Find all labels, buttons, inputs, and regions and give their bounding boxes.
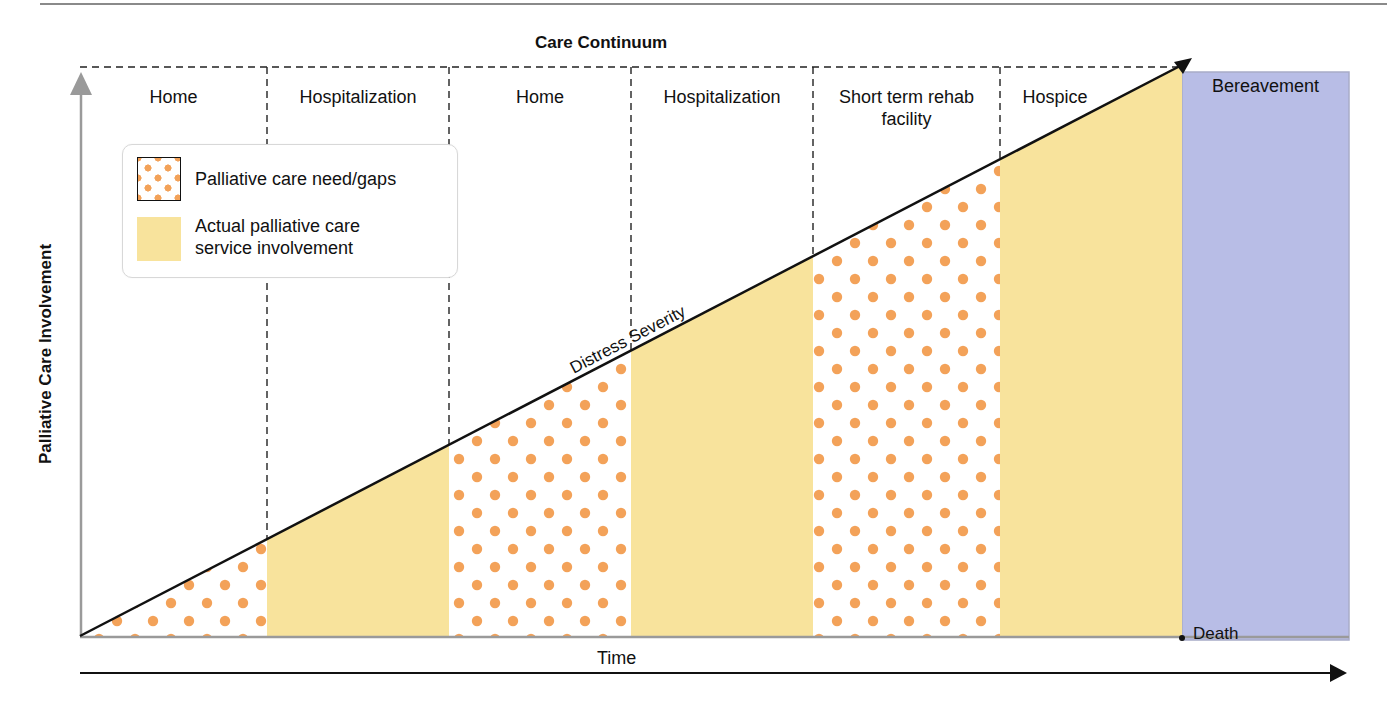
setting-label-home-2: Home — [449, 86, 631, 108]
legend-label-wrap: Actual palliative care service involveme… — [195, 215, 360, 259]
setting-label-rehab: Short term rehab facility — [813, 86, 1000, 130]
solid-swatch-icon — [137, 217, 181, 261]
death-point-icon — [1179, 635, 1185, 641]
legend: Palliative care need/gaps Actual palliat… — [122, 144, 458, 278]
setting-label-hospitalization-2: Hospitalization — [631, 86, 813, 108]
y-axis-label: Palliative Care Involvement — [36, 244, 56, 464]
death-label: Death — [1193, 624, 1238, 644]
fill-hospice — [1000, 60, 1182, 640]
setting-label-home-1: Home — [80, 86, 267, 108]
bereavement-block — [1182, 72, 1349, 640]
time-axis-arrow-icon — [1330, 664, 1347, 682]
diagram-title: Care Continuum — [535, 33, 667, 53]
setting-label-rehab-line2: facility — [813, 108, 1000, 130]
legend-label: Palliative care need/gaps — [195, 168, 396, 190]
fill-rehab — [813, 60, 1000, 640]
setting-label-rehab-line1: Short term rehab — [813, 86, 1000, 108]
legend-label-line1: Actual palliative care — [195, 215, 360, 237]
legend-item-need-gaps: Palliative care need/gaps — [137, 157, 396, 201]
setting-label-hospice: Hospice — [1000, 86, 1110, 108]
fill-hospitalization-2 — [631, 60, 813, 640]
dots-swatch-icon — [137, 157, 181, 201]
x-axis-label: Time — [597, 648, 636, 669]
setting-label-hospitalization-1: Hospitalization — [267, 86, 449, 108]
bereavement-label: Bereavement — [1182, 76, 1349, 97]
legend-item-actual-involvement: Actual palliative care service involveme… — [137, 217, 360, 261]
legend-label-line2: service involvement — [195, 237, 360, 259]
